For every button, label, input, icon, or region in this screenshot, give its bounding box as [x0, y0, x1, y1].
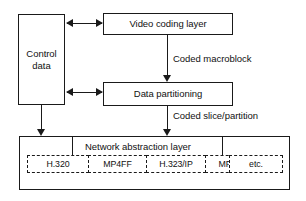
transport-label-h320: H.320 — [47, 159, 70, 169]
arrow-dp-to-nal — [163, 129, 171, 136]
edge-label-coded-slice-partition: Coded slice/partition — [173, 110, 258, 121]
transport-box-etc: etc. — [229, 155, 283, 173]
transport-box-h323ip: H.323/IP — [146, 155, 206, 173]
video-coding-layer-box: Video coding layer — [103, 13, 233, 35]
arrow-control-to-vcl-left — [66, 19, 73, 27]
arrow-control-to-dp-left — [66, 88, 73, 96]
transport-label-h323ip: H.323/IP — [159, 159, 192, 169]
arrow-control-to-nal — [37, 129, 45, 136]
video-coding-layer-diagram: Control data Video coding layer Data par… — [0, 0, 306, 201]
transport-box-h320: H.320 — [27, 155, 89, 173]
arrow-vcl-to-dp — [163, 75, 171, 82]
transport-label-mp4ff: MP4FF — [103, 159, 131, 169]
edge-label-coded-macroblock: Coded macroblock — [173, 53, 251, 64]
control-data-label: Control data — [26, 48, 56, 70]
data-partitioning-label: Data partitioning — [134, 88, 202, 99]
arrow-control-to-dp-right — [96, 88, 103, 96]
connector-control-to-nal — [41, 105, 42, 130]
network-abstraction-layer-label: Network abstraction layer — [82, 141, 194, 152]
control-data-box: Control data — [18, 14, 65, 105]
transport-box-mp4ff: MP4FF — [88, 155, 147, 173]
transport-label-etc: etc. — [249, 159, 263, 169]
connector-vcl-to-dp — [167, 35, 168, 75]
arrow-control-to-vcl-right — [96, 19, 103, 27]
data-partitioning-box: Data partitioning — [103, 82, 233, 106]
video-coding-layer-label: Video coding layer — [129, 18, 206, 29]
connector-dp-to-nal — [167, 106, 168, 130]
